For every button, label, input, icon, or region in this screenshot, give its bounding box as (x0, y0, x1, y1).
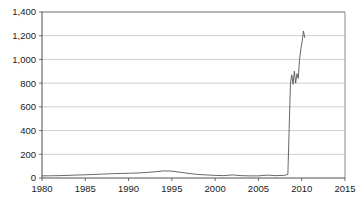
x-tick-label-2000: 2000 (205, 183, 226, 194)
plot-background (42, 12, 345, 178)
x-tick-label-2010: 2010 (291, 183, 312, 194)
y-tick-label-600: 600 (20, 101, 36, 112)
x-tick-label-2015: 2015 (334, 183, 355, 194)
y-tick-label-1200: 1,200 (12, 30, 36, 41)
x-tick-label-1985: 1985 (75, 183, 96, 194)
x-tick-label-1980: 1980 (31, 183, 52, 194)
chart-svg: 02004006008001,0001,2001,400 19801985199… (0, 0, 361, 209)
x-tick-label-2005: 2005 (248, 183, 269, 194)
y-tick-label-1000: 1,000 (12, 54, 36, 65)
y-tick-label-400: 400 (20, 125, 36, 136)
x-tick-label-1990: 1990 (118, 183, 139, 194)
x-tick-label-group: 19801985199019952000200520102015 (31, 183, 355, 194)
y-tick-label-200: 200 (20, 149, 36, 160)
y-tick-label-1400: 1,400 (12, 6, 36, 17)
line-chart: 02004006008001,0001,2001,400 19801985199… (0, 0, 361, 209)
y-tick-label-800: 800 (20, 78, 36, 89)
y-tick-label-group: 02004006008001,0001,2001,400 (12, 6, 36, 183)
x-tick-label-1995: 1995 (161, 183, 182, 194)
y-tick-label-0: 0 (31, 172, 36, 183)
